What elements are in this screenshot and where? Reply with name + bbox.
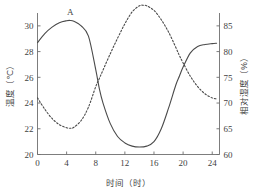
right-tick-label: 85	[224, 21, 234, 31]
x-tick-label: 24	[208, 158, 218, 168]
right-tick-label: 70	[224, 98, 234, 108]
chart-canvas: 202224262830 606570758085 04812162024 AB…	[0, 0, 258, 196]
x-tick-label: 16	[149, 158, 159, 168]
series-group	[38, 5, 217, 147]
curve-label-B: B	[139, 0, 145, 1]
x-tick-label: 20	[179, 158, 189, 168]
left-tick-label: 20	[25, 150, 35, 160]
series-curve-A	[38, 20, 217, 147]
left-tick-label: 22	[25, 124, 34, 134]
left-tick-label: 30	[25, 21, 35, 31]
right-tick-label: 80	[224, 47, 234, 57]
right-axis-ticks: 606570758085	[217, 21, 234, 160]
dual-axis-line-chart: 202224262830 606570758085 04812162024 AB…	[0, 0, 258, 196]
right-tick-label: 60	[224, 150, 234, 160]
x-axis-ticks: 04812162024	[35, 152, 217, 168]
x-tick-label: 12	[120, 158, 129, 168]
x-tick-label: 0	[35, 158, 40, 168]
left-tick-label: 24	[25, 98, 35, 108]
right-tick-label: 75	[224, 73, 234, 83]
series-curve-B	[38, 5, 217, 128]
series-annotations: AB	[67, 0, 145, 17]
x-tick-label: 4	[64, 158, 69, 168]
x-axis-title: 时间（时）	[106, 178, 151, 188]
x-tick-label: 8	[93, 158, 98, 168]
left-tick-label: 28	[25, 47, 35, 57]
left-axis-title: 温度（℃）	[5, 61, 15, 107]
curve-label-A: A	[67, 7, 74, 17]
right-axis-title: 相对湿度（%）	[239, 53, 249, 115]
left-tick-label: 26	[25, 73, 35, 83]
right-tick-label: 65	[224, 124, 234, 134]
